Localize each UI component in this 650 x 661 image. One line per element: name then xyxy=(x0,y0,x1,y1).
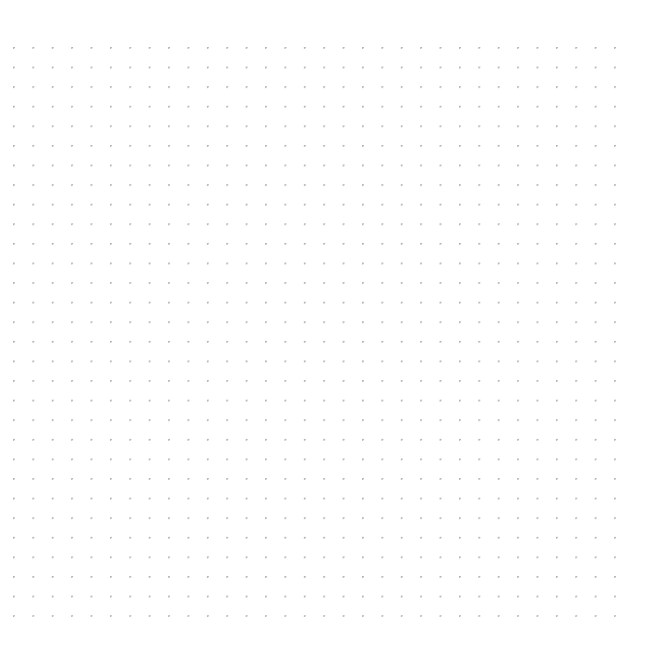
app-root xyxy=(0,0,650,661)
canvas-surface[interactable] xyxy=(0,0,650,661)
dot-grid-pattern xyxy=(13,47,616,617)
